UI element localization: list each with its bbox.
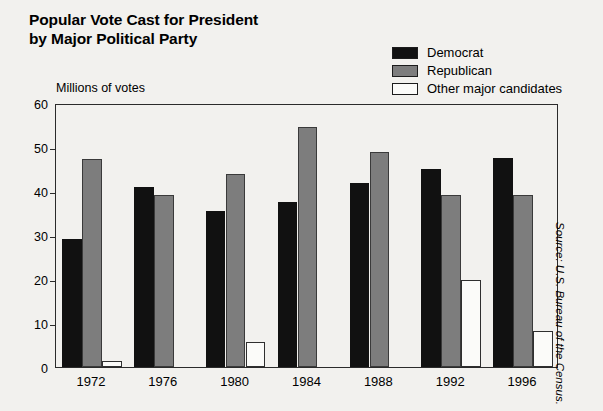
bar-1988-democrat <box>350 183 370 367</box>
legend-label-other: Other major candidates <box>427 82 562 96</box>
bar-group-1988 <box>350 105 410 367</box>
y-axis-tick-label: 20 <box>4 275 48 287</box>
bar-1996-republican <box>513 195 533 367</box>
bar-1976-republican <box>154 195 174 367</box>
page-title: Popular Vote Cast for President by Major… <box>29 10 258 48</box>
x-axis-label-1984: 1984 <box>271 374 343 389</box>
x-axis-label-1972: 1972 <box>55 374 127 389</box>
bar-1984-democrat <box>278 202 298 367</box>
y-axis-tick-label: 0 <box>4 363 48 375</box>
title-line-1: Popular Vote Cast for President <box>29 10 258 29</box>
bar-1980-republican <box>226 174 246 367</box>
legend-swatch-republican <box>392 65 418 77</box>
y-axis-tick-label: 30 <box>4 231 48 243</box>
legend-item-democrat: Democrat <box>392 44 562 61</box>
bar-group-1996 <box>493 105 553 367</box>
legend-swatch-other <box>392 83 418 95</box>
x-axis-label-1988: 1988 <box>342 374 414 389</box>
x-axis-label-1976: 1976 <box>127 374 199 389</box>
x-axis-label-1992: 1992 <box>414 374 486 389</box>
y-axis-tick-label: 10 <box>4 319 48 331</box>
plot-area: 0102030405060 <box>55 104 558 368</box>
bar-1996-democrat <box>493 158 513 367</box>
x-axis-label-1996: 1996 <box>486 374 558 389</box>
chart-page: Popular Vote Cast for President by Major… <box>0 0 603 411</box>
plot-inner <box>56 105 557 367</box>
bar-1972-democrat <box>62 239 82 367</box>
legend-label-republican: Republican <box>427 64 492 78</box>
bar-1992-other <box>461 280 481 367</box>
bar-1972-republican <box>82 159 102 367</box>
y-axis-tick-mark <box>50 325 56 326</box>
x-axis-label-1980: 1980 <box>199 374 271 389</box>
y-axis-tick-mark <box>50 149 56 150</box>
y-axis-tick-mark <box>50 237 56 238</box>
bar-group-1980 <box>206 105 266 367</box>
bar-group-1992 <box>421 105 481 367</box>
y-axis-caption: Millions of votes <box>56 81 145 95</box>
legend-label-democrat: Democrat <box>427 46 483 60</box>
legend-item-republican: Republican <box>392 62 562 79</box>
bar-1996-other <box>533 331 553 367</box>
bar-1972-other <box>102 361 122 367</box>
legend-swatch-democrat <box>392 47 418 59</box>
bar-1980-other <box>246 342 266 367</box>
bar-group-1976 <box>134 105 194 367</box>
bar-1980-democrat <box>206 211 226 367</box>
bar-1992-republican <box>441 195 461 367</box>
y-axis-tick-label: 50 <box>4 143 48 155</box>
chart-legend: DemocratRepublicanOther major candidates <box>392 44 562 98</box>
y-axis-tick-mark <box>50 281 56 282</box>
y-axis-tick-label: 40 <box>4 187 48 199</box>
bar-1988-republican <box>370 152 390 367</box>
y-axis-tick-label: 60 <box>4 99 48 111</box>
bar-group-1972 <box>62 105 122 367</box>
bar-1976-democrat <box>134 187 154 367</box>
bar-1984-republican <box>298 127 318 367</box>
legend-item-other: Other major candidates <box>392 80 562 97</box>
bar-1992-democrat <box>421 169 441 367</box>
y-axis-tick-mark <box>50 193 56 194</box>
bar-group-1984 <box>278 105 338 367</box>
title-line-2: by Major Political Party <box>29 29 258 48</box>
